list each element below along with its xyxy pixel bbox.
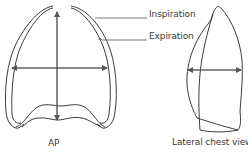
ap-left-inspiration-outline xyxy=(5,6,53,128)
ap-left-expiration-outline xyxy=(12,8,53,123)
chest-diagram xyxy=(0,0,248,158)
ap-diaphragm-inspiration xyxy=(22,117,100,127)
ap-right-expiration-outline xyxy=(71,8,110,123)
expiration-label: Expiration xyxy=(149,31,194,41)
ap-arrows xyxy=(12,12,107,120)
leader-lines xyxy=(95,18,147,40)
lateral-view xyxy=(187,7,242,132)
lateral-outer-outline xyxy=(187,7,242,131)
inspiration-label: Inspiration xyxy=(149,9,196,19)
lateral-view-label: Lateral chest view xyxy=(172,137,248,147)
ap-view xyxy=(5,6,116,128)
ap-diaphragm-expiration xyxy=(16,105,105,127)
lateral-inner-outline xyxy=(199,14,238,132)
ap-view-label: AP xyxy=(48,138,59,148)
